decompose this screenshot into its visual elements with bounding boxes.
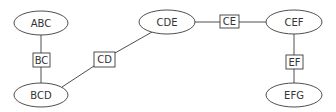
separator-bc: BC — [33, 53, 50, 67]
clique-cef-label: CEF — [284, 17, 303, 28]
clique-abc: ABC — [14, 11, 68, 35]
clique-efg: EFG — [266, 83, 322, 107]
edge-cd-cde — [115, 32, 152, 53]
edge-bcd-cd — [62, 66, 94, 87]
junction-tree-diagram: ABC BCD CDE CEF EFG BC CD CE EF — [0, 0, 336, 112]
clique-cde-label: CDE — [156, 17, 177, 28]
clique-bcd: BCD — [14, 83, 68, 107]
clique-cde: CDE — [139, 10, 195, 34]
clique-abc-label: ABC — [31, 18, 52, 29]
separator-cd-label: CD — [97, 54, 112, 65]
separator-ce: CE — [220, 15, 239, 28]
separator-ef: EF — [286, 55, 303, 69]
clique-cef: CEF — [266, 10, 322, 34]
separator-cd: CD — [94, 52, 115, 67]
separator-bc-label: BC — [35, 55, 49, 66]
separator-ef-label: EF — [288, 57, 300, 68]
clique-efg-label: EFG — [284, 90, 304, 101]
clique-bcd-label: BCD — [30, 90, 52, 101]
separator-ce-label: CE — [223, 16, 236, 27]
